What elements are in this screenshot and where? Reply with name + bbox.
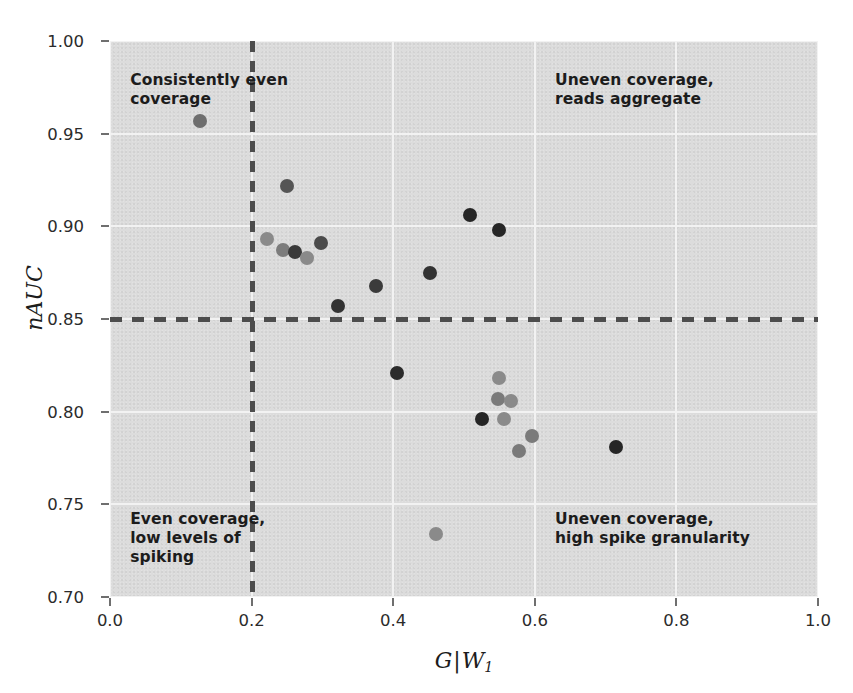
scatter-point xyxy=(314,236,328,250)
scatter-point xyxy=(260,232,274,246)
scatter-point xyxy=(492,223,506,237)
quadrant-annotation-top-right: Uneven coverage, reads aggregate xyxy=(555,71,714,109)
x-axis-tick-label: 0.0 xyxy=(97,611,123,630)
plot-area: Consistently even coverageUneven coverag… xyxy=(110,41,818,597)
gridline-horizontal xyxy=(110,225,818,227)
y-axis-tick-mark xyxy=(101,133,109,135)
scatter-point xyxy=(193,114,207,128)
quadrant-annotation-bottom-left: Even coverage, low levels of spiking xyxy=(130,510,265,567)
scatter-point xyxy=(300,251,314,265)
x-axis-tick-label: 1.0 xyxy=(805,611,831,630)
x-axis-tick-label: 0.8 xyxy=(663,611,689,630)
scatter-point xyxy=(525,429,539,443)
gridline-horizontal xyxy=(110,596,818,597)
scatter-point xyxy=(497,412,511,426)
y-axis-tick-mark xyxy=(101,318,109,320)
y-axis-tick-mark xyxy=(101,503,109,505)
y-axis-tick-mark xyxy=(101,596,109,598)
scatter-point xyxy=(609,440,623,454)
gridline-horizontal xyxy=(110,133,818,135)
x-axis-tick-mark xyxy=(817,598,819,606)
scatter-point xyxy=(463,208,477,222)
y-axis-tick-label: 0.85 xyxy=(47,310,84,329)
threshold-line-horizontal xyxy=(110,317,818,322)
y-axis-tick-mark xyxy=(101,225,109,227)
y-axis-label: nAUC xyxy=(22,265,47,330)
scatter-point xyxy=(475,412,489,426)
gridline-horizontal xyxy=(110,503,818,505)
x-axis-tick-mark xyxy=(534,598,536,606)
quadrant-annotation-bottom-right: Uneven coverage, high spike granularity xyxy=(555,510,750,548)
x-axis-tick-mark xyxy=(392,598,394,606)
y-axis-tick-label: 0.95 xyxy=(47,124,84,143)
y-axis-tick-mark xyxy=(101,40,109,42)
y-axis-tick-label: 0.75 xyxy=(47,495,84,514)
y-axis-tick-label: 0.80 xyxy=(47,402,84,421)
scatter-point xyxy=(429,527,443,541)
x-axis-label: G|W1 xyxy=(435,648,494,675)
scatter-point xyxy=(512,444,526,458)
scatter-point xyxy=(492,371,506,385)
quadrant-annotation-top-left: Consistently even coverage xyxy=(130,71,288,109)
y-axis-tick-label: 0.70 xyxy=(47,588,84,607)
x-axis-tick-mark xyxy=(251,598,253,606)
y-axis-tick-mark xyxy=(101,411,109,413)
x-axis-tick-mark xyxy=(675,598,677,606)
scatter-point xyxy=(423,266,437,280)
scatter-point xyxy=(390,366,404,380)
scatter-plot-figure: nAUC 0.700.750.800.850.900.951.00 Consis… xyxy=(0,0,853,693)
x-axis-tick-label: 0.2 xyxy=(238,611,264,630)
y-axis-tick-label: 0.90 xyxy=(47,217,84,236)
scatter-point xyxy=(369,279,383,293)
scatter-point xyxy=(331,299,345,313)
scatter-point xyxy=(504,394,518,408)
x-axis-tick-mark xyxy=(109,598,111,606)
x-axis-tick-label: 0.6 xyxy=(522,611,548,630)
y-axis-tick-label: 1.00 xyxy=(47,32,84,51)
x-axis-tick-label: 0.4 xyxy=(380,611,406,630)
scatter-point xyxy=(280,179,294,193)
gridline-horizontal xyxy=(110,41,818,42)
gridline-horizontal xyxy=(110,411,818,413)
